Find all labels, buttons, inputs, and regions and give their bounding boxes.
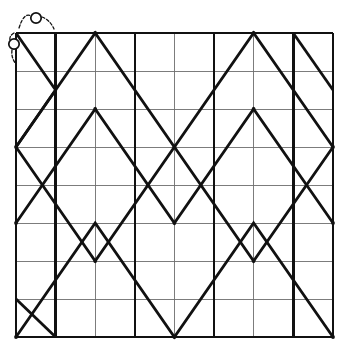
path-node-9	[331, 221, 335, 225]
path-node-0	[14, 145, 18, 149]
circle-marker-top	[31, 13, 41, 23]
path-node-10	[14, 335, 18, 339]
path-node-7	[173, 221, 177, 225]
path-node-1	[93, 31, 97, 35]
lattice-zigzag-figure	[0, 0, 339, 349]
path-node-14	[331, 335, 335, 339]
path-node-6	[93, 107, 97, 111]
path-node-12	[173, 335, 177, 339]
path-node-5	[14, 221, 18, 225]
path-node-13	[252, 259, 256, 263]
path-node-2	[173, 145, 177, 149]
path-node-11	[93, 259, 97, 263]
path-node-3	[252, 31, 256, 35]
circle-marker-left	[9, 39, 19, 49]
path-node-8	[252, 107, 256, 111]
path-node-4	[331, 145, 335, 149]
figure-root	[0, 0, 339, 349]
